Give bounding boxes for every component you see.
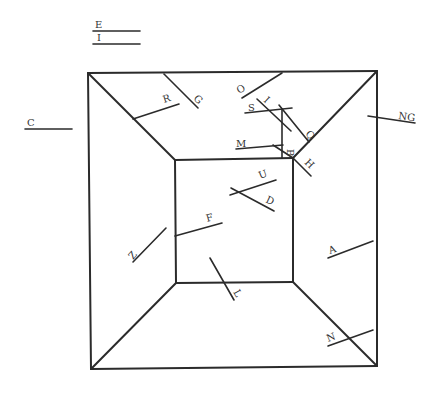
segment-line xyxy=(133,104,179,119)
segment-line xyxy=(175,223,222,236)
outer-top-edge xyxy=(88,71,377,73)
segment-d: D xyxy=(231,188,276,211)
segment-f: F xyxy=(175,211,222,236)
outer-left-edge xyxy=(88,73,91,369)
inner-bottom-edge xyxy=(176,282,293,283)
segment-line xyxy=(242,73,282,98)
segment-h: H xyxy=(293,157,317,176)
segment-label: M xyxy=(236,138,246,149)
diagonal-bottom-left xyxy=(91,283,176,369)
segment-label: F xyxy=(205,211,215,223)
segment-label: S xyxy=(248,102,255,113)
diagonal-bottom-right xyxy=(293,282,377,366)
segment-l: L xyxy=(210,258,244,300)
segment-line xyxy=(230,180,276,195)
diagonal-top-left xyxy=(88,73,175,160)
segment-e: E xyxy=(93,19,140,31)
segment-label: I xyxy=(97,32,101,43)
segment-o: O xyxy=(235,73,283,98)
segment-a: A xyxy=(326,241,373,258)
segment-ng: NG xyxy=(368,110,416,123)
segment-label: U xyxy=(257,168,269,181)
segment-n: N xyxy=(325,330,373,346)
inner-top-edge xyxy=(175,158,293,160)
room-frame xyxy=(88,71,377,369)
segment-z: Z xyxy=(126,228,166,262)
segment-i: I xyxy=(93,32,140,44)
segment-label: I xyxy=(262,94,272,105)
segment-line xyxy=(210,258,234,300)
inner-left-edge xyxy=(175,160,176,283)
segment-label: Z xyxy=(126,249,139,261)
segment-label: NG xyxy=(398,110,416,123)
segment-label: E xyxy=(95,19,102,30)
diagram-canvas: EICRGOISQMBHNGUDFZLAN xyxy=(0,0,439,393)
segment-label: Q xyxy=(303,128,317,141)
segment-line xyxy=(257,99,291,131)
segment-b: B xyxy=(273,145,296,158)
segment-label: D xyxy=(264,194,276,207)
segment-q: Q xyxy=(279,105,317,142)
segment-label: B xyxy=(285,149,296,156)
labeled-segments: EICRGOISQMBHNGUDFZLAN xyxy=(25,19,416,346)
diagonal-top-right xyxy=(293,71,377,158)
diagram-svg: EICRGOISQMBHNGUDFZLAN xyxy=(0,0,439,393)
segment-label: R xyxy=(161,92,172,105)
segment-r: R xyxy=(133,92,179,119)
segment-c: C xyxy=(25,117,72,129)
segment-label: N xyxy=(325,330,337,343)
segment-label: C xyxy=(27,117,35,128)
segment-label: O xyxy=(235,82,248,96)
outer-bottom-edge xyxy=(91,366,377,369)
